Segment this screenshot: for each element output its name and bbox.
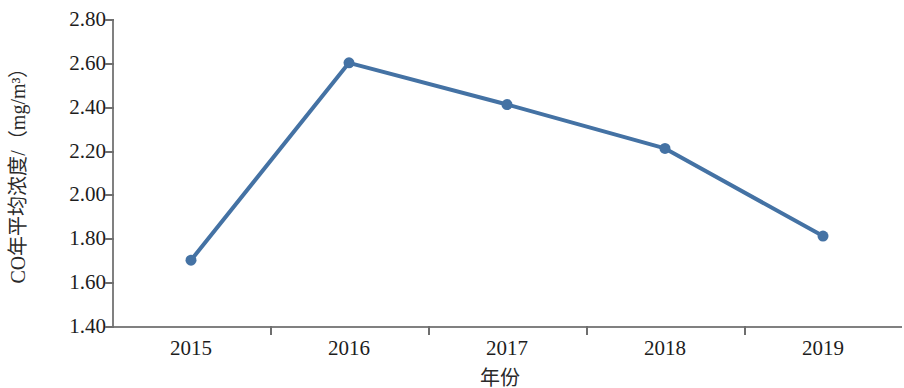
x-axis-tick-label: 2016 bbox=[328, 336, 370, 361]
y-axis-tick-label: 2.00 bbox=[38, 182, 106, 207]
y-axis-tick-label: 1.60 bbox=[38, 270, 106, 295]
y-axis-tick-mark bbox=[105, 151, 114, 153]
data-point-marker bbox=[660, 143, 671, 154]
y-axis-tick-label: 2.20 bbox=[38, 138, 106, 163]
x-axis-tick-label: 2015 bbox=[170, 336, 212, 361]
y-axis-tick-labels: 2.802.602.402.202.001.801.601.40 bbox=[34, 0, 106, 388]
x-axis-tick-label: 2019 bbox=[802, 336, 844, 361]
data-point-marker bbox=[344, 57, 355, 68]
y-axis-tick-label: 1.80 bbox=[38, 226, 106, 251]
chart-figure: CO年平均浓度/（mg/m³） 2.802.602.402.202.001.80… bbox=[0, 0, 904, 388]
x-axis-tick-label: 2018 bbox=[644, 336, 686, 361]
y-axis-tick-label: 2.60 bbox=[38, 50, 106, 75]
x-axis-title: 年份 bbox=[0, 362, 904, 388]
plot-area bbox=[112, 19, 902, 327]
y-axis-tick-label: 2.80 bbox=[38, 7, 106, 32]
data-point-marker bbox=[502, 99, 513, 110]
y-axis-tick-label: 2.40 bbox=[38, 94, 106, 119]
series-line-co-concentration bbox=[112, 19, 902, 328]
x-axis-title-text: 年份 bbox=[480, 367, 520, 388]
y-axis-tick-mark bbox=[105, 63, 114, 65]
y-axis-title-text: CO年平均浓度/（mg/m³） bbox=[2, 57, 31, 283]
x-axis-tick-mark bbox=[586, 326, 588, 335]
y-axis-tick-mark bbox=[105, 194, 114, 196]
x-axis-tick-mark bbox=[744, 326, 746, 335]
data-point-marker bbox=[818, 231, 829, 242]
y-axis-tick-mark bbox=[105, 107, 114, 109]
y-axis-tick-label: 1.40 bbox=[38, 314, 106, 339]
y-axis-tick-mark bbox=[105, 19, 114, 21]
y-axis-tick-mark bbox=[105, 282, 114, 284]
y-axis-tick-mark bbox=[105, 326, 114, 328]
y-axis-tick-mark bbox=[105, 238, 114, 240]
y-axis-title: CO年平均浓度/（mg/m³） bbox=[0, 0, 32, 340]
x-axis-tick-mark bbox=[428, 326, 430, 335]
data-point-marker bbox=[186, 255, 197, 266]
x-axis-tick-mark bbox=[270, 326, 272, 335]
x-axis-tick-label: 2017 bbox=[486, 336, 528, 361]
series-polyline bbox=[191, 63, 823, 260]
